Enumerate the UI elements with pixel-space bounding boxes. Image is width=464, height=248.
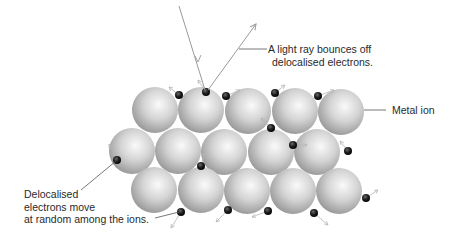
electron-motion-arrow — [317, 216, 328, 225]
electrons-leader-line-2 — [155, 212, 179, 218]
metal-ion — [178, 87, 224, 133]
metal-ion — [225, 88, 271, 134]
delocalised-electron — [344, 147, 352, 155]
electron-motion-arrow — [369, 190, 378, 196]
delocalised-electron — [264, 207, 272, 215]
delocalised-electron — [289, 141, 297, 149]
metal-ion — [109, 128, 155, 174]
light-ray-label: A light ray bounces off delocalised elec… — [268, 43, 373, 68]
metal-ion — [294, 129, 340, 175]
delocalised-electron — [314, 92, 322, 100]
reflected-light-ray — [208, 24, 256, 90]
metal-ion — [132, 87, 178, 133]
delocalised-electron — [310, 209, 318, 217]
delocalised-electron — [267, 124, 275, 132]
electrons-label-line-1: Delocalised — [24, 188, 149, 201]
metal-ion — [155, 128, 201, 174]
metal-ion-label: Metal ion — [392, 104, 435, 117]
delocalised-electron — [222, 92, 230, 100]
light-ray-label-line-1: A light ray bounces off — [268, 43, 373, 56]
metal-ion — [224, 168, 270, 214]
metal-ion — [270, 168, 316, 214]
electron-motion-arrow — [278, 85, 285, 91]
metal-ion — [248, 129, 294, 175]
electrons-label-line-3: at random among the ions. — [24, 213, 149, 226]
electron-motion-arrow — [252, 212, 264, 217]
electrons-leader-line-1 — [81, 161, 116, 190]
delocalised-electron — [197, 162, 205, 170]
metal-ion — [178, 167, 224, 213]
delocalised-electron — [175, 91, 183, 99]
electrons-label-line-2: electrons move — [24, 201, 149, 214]
light-ray-label-line-2: delocalised electrons. — [272, 56, 373, 69]
metallic-bonding-diagram: A light ray bounces off delocalised elec… — [0, 0, 464, 248]
electron-motion-arrow — [169, 87, 176, 93]
electron-motion-arrow — [171, 215, 179, 228]
metal-ion — [318, 89, 364, 135]
delocalised-electron — [224, 206, 232, 214]
incident-light-ray — [179, 6, 205, 90]
metal-ion — [316, 168, 362, 214]
electron-motion-arrow — [216, 213, 225, 222]
metal-ion — [272, 88, 318, 134]
delocalised-electron — [362, 194, 370, 202]
electron-motion-arrow — [340, 141, 346, 148]
electrons-label: Delocalised electrons move at random amo… — [24, 188, 149, 226]
delocalised-electron — [271, 89, 279, 97]
